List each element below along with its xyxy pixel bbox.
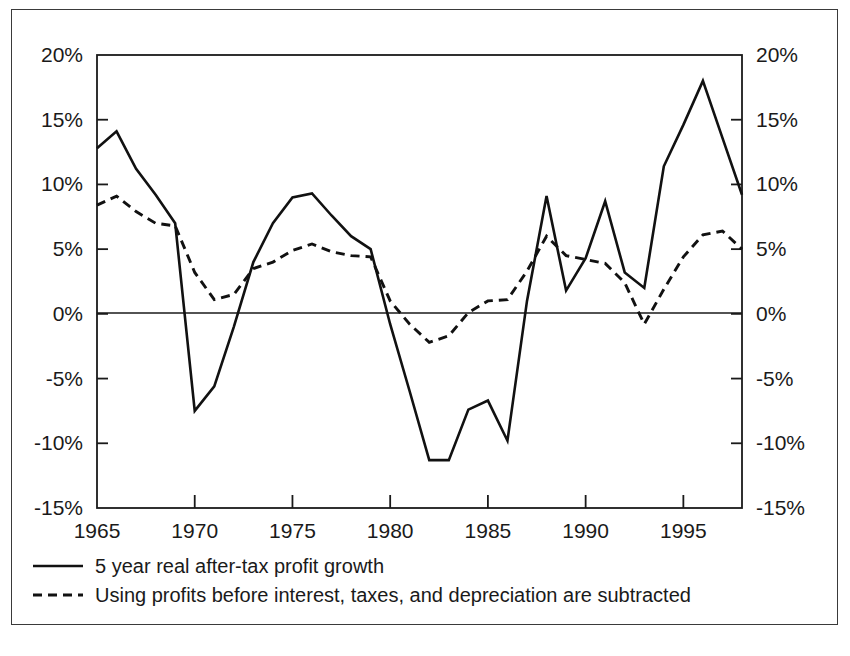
legend-label-solid: 5 year real after-tax profit growth bbox=[95, 555, 384, 577]
legend-label-dashed: Using profits before interest, taxes, an… bbox=[95, 584, 691, 606]
y-tick-label-right-5: -5% bbox=[756, 367, 793, 390]
y-tick-label-left-2: 10% bbox=[41, 172, 83, 195]
chart-legend: 5 year real after-tax profit growth Usin… bbox=[33, 555, 691, 606]
y-tick-label-left-5: -5% bbox=[46, 367, 83, 390]
x-tick-label-1975: 1975 bbox=[269, 519, 316, 542]
y-axis-labels-right: 20%15%10%5%0%-5%-10%-15% bbox=[756, 43, 805, 519]
x-axis-ticks bbox=[195, 495, 684, 508]
x-tick-label-1985: 1985 bbox=[465, 519, 512, 542]
x-axis-labels: 1965197019751980198519901995 bbox=[74, 519, 707, 542]
y-tick-label-right-1: 15% bbox=[756, 108, 798, 131]
y-axis-labels-left: 20%15%10%5%0%-5%-10%-15% bbox=[34, 43, 83, 519]
chart-figure: 20%15%10%5%0%-5%-10%-15% 20%15%10%5%0%-5… bbox=[0, 0, 850, 656]
y-tick-label-left-4: 0% bbox=[53, 302, 83, 325]
y-tick-label-left-6: -10% bbox=[34, 431, 83, 454]
x-tick-label-1990: 1990 bbox=[562, 519, 609, 542]
x-tick-label-1965: 1965 bbox=[74, 519, 121, 542]
x-tick-label-1995: 1995 bbox=[660, 519, 707, 542]
y-tick-label-right-4: 0% bbox=[756, 302, 786, 325]
y-tick-label-right-6: -10% bbox=[756, 431, 805, 454]
y-tick-label-right-7: -15% bbox=[756, 496, 805, 519]
y-tick-label-right-3: 5% bbox=[756, 237, 786, 260]
x-tick-label-1980: 1980 bbox=[367, 519, 414, 542]
series-line-before-interest-taxes-depreciation bbox=[97, 196, 742, 342]
y-tick-label-right-0: 20% bbox=[756, 43, 798, 66]
y-axis-ticks-left bbox=[97, 120, 108, 444]
y-tick-label-left-3: 5% bbox=[53, 237, 83, 260]
y-tick-label-left-1: 15% bbox=[41, 108, 83, 131]
line-chart: 20%15%10%5%0%-5%-10%-15% 20%15%10%5%0%-5… bbox=[0, 0, 850, 656]
x-tick-label-1970: 1970 bbox=[171, 519, 218, 542]
y-tick-label-right-2: 10% bbox=[756, 172, 798, 195]
y-tick-label-left-7: -15% bbox=[34, 496, 83, 519]
y-tick-label-left-0: 20% bbox=[41, 43, 83, 66]
